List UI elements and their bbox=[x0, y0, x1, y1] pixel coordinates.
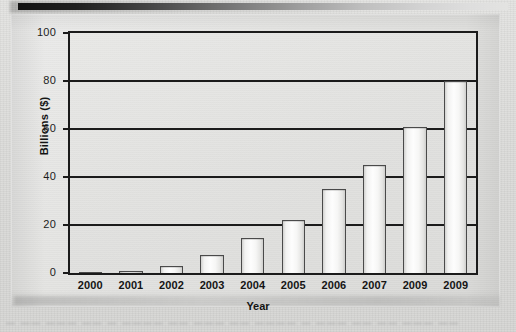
x-axis-tick-label-1: 2001 bbox=[110, 279, 151, 291]
y-axis-tick-label-20: 20 bbox=[14, 218, 56, 230]
bar-2000-0 bbox=[79, 272, 103, 273]
x-axis-tick-label-3: 2003 bbox=[192, 279, 233, 291]
scanned-page: Billions ($) Year — —— ——— —— — ———— —— … bbox=[0, 0, 516, 332]
bar-2005-5 bbox=[282, 220, 306, 273]
y-axis-tick-label-40: 40 bbox=[14, 170, 56, 182]
x-axis-tick-label-5: 2005 bbox=[273, 279, 314, 291]
bar-2002-2 bbox=[160, 266, 184, 273]
x-axis-tick-label-7: 2007 bbox=[354, 279, 395, 291]
scan-dark-band-artifact bbox=[18, 3, 508, 10]
bar-2003-3 bbox=[200, 255, 224, 273]
bar-2009-8 bbox=[403, 127, 427, 273]
gridline-80 bbox=[70, 80, 476, 82]
bar-2006-6 bbox=[322, 189, 346, 273]
page-caption-text: — —— ——— —— — ———— —— ——— —— ———— — ——— … bbox=[6, 318, 510, 330]
x-axis-tick-label-4: 2004 bbox=[232, 279, 273, 291]
bar-2007-7 bbox=[363, 165, 387, 273]
bar-2001-1 bbox=[119, 271, 143, 273]
y-axis-tick-label-100: 100 bbox=[14, 26, 56, 38]
x-axis-title: Year bbox=[0, 300, 516, 312]
x-axis-tick-label-6: 2006 bbox=[313, 279, 354, 291]
y-axis-tick-label-80: 80 bbox=[14, 74, 56, 86]
y-axis-tick-mark-40 bbox=[63, 176, 68, 178]
bar-2004-4 bbox=[241, 238, 265, 273]
y-axis-tick-label-0: 0 bbox=[14, 266, 56, 278]
x-axis-tick-label-8: 2009 bbox=[395, 279, 436, 291]
plot-area bbox=[68, 31, 478, 275]
x-axis-tick-label-2: 2002 bbox=[151, 279, 192, 291]
x-axis-tick-label-9: 2009 bbox=[435, 279, 476, 291]
y-axis-tick-mark-100 bbox=[63, 32, 68, 34]
y-axis-tick-mark-0 bbox=[63, 272, 68, 274]
y-axis-tick-mark-20 bbox=[63, 224, 68, 226]
y-axis-tick-mark-60 bbox=[63, 128, 68, 130]
y-axis-tick-mark-80 bbox=[63, 80, 68, 82]
x-axis-tick-label-0: 2000 bbox=[70, 279, 111, 291]
bar-2009-9 bbox=[444, 81, 468, 273]
y-axis-tick-label-60: 60 bbox=[14, 122, 56, 134]
